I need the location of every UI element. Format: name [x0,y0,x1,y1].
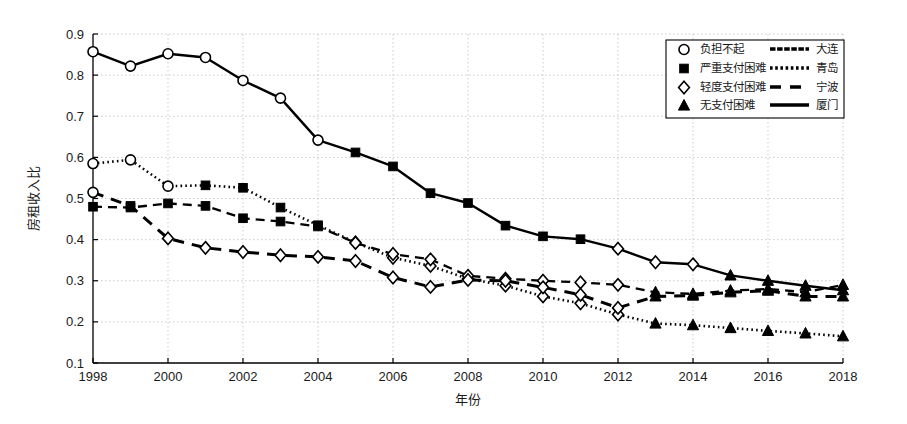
marker-青岛-2003 [276,203,285,212]
legend-square-filled-icon [680,64,689,73]
marker-厦门-1999 [126,202,135,211]
legend-city-label-3: 厦门 [816,98,838,112]
y-tick-label: 0.8 [66,68,84,83]
marker-大连-2005 [351,148,360,157]
marker-宁波-2004 [314,222,323,231]
x-tick-label: 2000 [154,369,183,384]
x-tick-label: 2018 [829,369,858,384]
y-tick-label: 0.5 [66,191,84,206]
legend-marker-label-2: 轻度支付困难 [700,80,766,94]
marker-大连-2004 [313,135,323,145]
legend-circle-open-icon [679,45,689,55]
marker-宁波-2003 [276,217,285,226]
x-tick-label: 2010 [529,369,558,384]
marker-青岛-1999 [126,155,136,165]
marker-大连-2001 [201,52,211,62]
marker-大连-2008 [464,199,473,208]
legend-marker-label-1: 严重支付困难 [700,61,766,75]
marker-青岛-2002 [239,184,248,193]
legend-city-label-2: 宁波 [816,80,839,94]
x-tick-label: 2008 [454,369,483,384]
x-tick-label: 2014 [679,369,708,384]
chart-canvas: 0.10.20.30.40.50.60.70.80.9 199820002002… [0,0,907,424]
marker-青岛-2000 [163,181,173,191]
x-tick-label: 2002 [229,369,258,384]
marker-大连-2006 [389,162,398,171]
y-tick-label: 0.3 [66,273,84,288]
legend-city-label-0: 大连 [816,42,839,56]
marker-厦门-1998 [88,187,98,197]
marker-大连-2010 [539,232,548,241]
legend-marker-label-0: 负担不起 [700,42,745,56]
marker-宁波-2002 [239,214,248,223]
y-axis-tick-labels: 0.10.20.30.40.50.60.70.80.9 [66,27,84,371]
marker-大连-2011 [576,235,585,244]
marker-宁波-2000 [164,199,173,208]
y-axis-title: 房租收入比 [26,166,41,231]
marker-大连-1999 [126,61,136,71]
marker-大连-2009 [501,221,510,230]
marker-青岛-1998 [88,159,98,169]
y-tick-label: 0.4 [66,232,84,247]
x-tick-label: 2016 [754,369,783,384]
marker-大连-2002 [238,75,248,85]
x-axis-title: 年份 [455,392,481,407]
x-tick-label: 2012 [604,369,633,384]
legend: 负担不起严重支付困难轻度支付困难无支付困难大连青岛宁波厦门 [666,40,844,118]
legend-city-label-1: 青岛 [816,61,838,75]
x-tick-label: 1998 [79,369,108,384]
y-tick-label: 0.7 [66,109,84,124]
marker-大连-2007 [426,189,435,198]
marker-宁波-1998 [89,202,98,211]
marker-宁波-2001 [201,202,210,211]
marker-大连-2000 [163,49,173,59]
marker-大连-2003 [276,93,286,103]
x-tick-label: 2006 [379,369,408,384]
y-tick-label: 0.2 [66,314,84,329]
legend-marker-label-3: 无支付困难 [700,98,755,112]
x-tick-label: 2004 [304,369,333,384]
y-tick-label: 0.9 [66,27,84,42]
marker-青岛-2001 [201,181,210,190]
y-tick-label: 0.6 [66,150,84,165]
rent-to-income-ratio-chart: 0.10.20.30.40.50.60.70.80.9 199820002002… [0,0,907,424]
marker-大连-1998 [88,47,98,57]
